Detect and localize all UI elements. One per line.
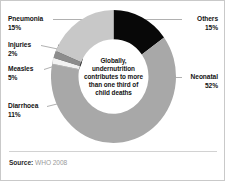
chart-plot-area: Globally, undernutrition contributes to …	[1, 1, 225, 151]
slice-label-pneumonia: Pneumonia 15%	[8, 15, 43, 32]
footer-divider	[9, 151, 217, 152]
slice-label-injuries-pct: 2%	[8, 50, 31, 59]
slice-label-measles-name: Measles	[8, 65, 33, 74]
center-line-3: contributes to more	[78, 72, 150, 80]
center-line-4: than one third of	[78, 81, 150, 89]
chart-card: Globally, undernutrition contributes to …	[0, 0, 225, 181]
source-value: WHO 2008	[35, 159, 67, 166]
slice-label-neonatal: Neonatal 52%	[191, 73, 218, 90]
slice-label-measles-pct: 5%	[8, 74, 33, 83]
slice-label-diarrhoea-name: Diarrhoea	[8, 102, 38, 111]
slice-label-injuries-name: Injuries	[8, 41, 31, 50]
center-line-1: Globally,	[78, 56, 150, 64]
slice-label-others: Others 15%	[197, 15, 218, 32]
slice-label-pneumonia-name: Pneumonia	[8, 15, 43, 24]
source-note: Source: WHO 2008	[9, 159, 67, 166]
slice-label-neonatal-pct: 52%	[191, 82, 218, 91]
slice-label-measles: Measles 5%	[8, 65, 33, 82]
slice-label-pneumonia-pct: 15%	[8, 24, 43, 33]
center-annotation: Globally, undernutrition contributes to …	[78, 56, 150, 96]
center-line-2: undernutrition	[78, 64, 150, 72]
slice-pneumonia	[56, 10, 114, 62]
slice-label-others-pct: 15%	[197, 24, 218, 33]
center-line-5: child deaths	[78, 89, 150, 97]
donut-chart: Globally, undernutrition contributes to …	[51, 10, 176, 143]
slice-label-diarrhoea-pct: 11%	[8, 111, 38, 120]
source-label: Source:	[9, 159, 33, 166]
slice-label-diarrhoea: Diarrhoea 11%	[8, 102, 38, 119]
slice-label-neonatal-name: Neonatal	[191, 73, 218, 82]
slice-label-injuries: Injuries 2%	[8, 41, 31, 58]
slice-label-others-name: Others	[197, 15, 218, 24]
